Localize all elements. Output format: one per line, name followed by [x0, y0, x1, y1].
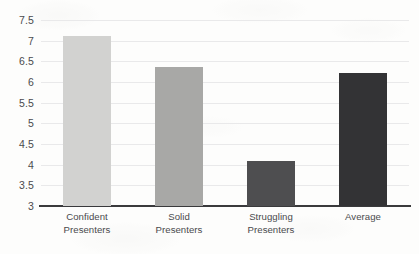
x-axis-tick-label-line: Presenters [225, 224, 317, 237]
y-axis-tick-label: 7.5 [19, 14, 34, 26]
y-axis-tick-label: 5.5 [19, 97, 34, 109]
x-axis-tick-label: SolidPresenters [133, 211, 225, 236]
y-axis-tick-label: 3.5 [19, 179, 34, 191]
bars-layer [41, 20, 409, 206]
x-axis-tick-label-line: Confident [66, 211, 108, 222]
x-axis-tick-label-line: Struggling [249, 211, 293, 222]
x-axis-tick-label-line: Presenters [41, 224, 133, 237]
x-axis-tick-label-line: Solid [168, 211, 190, 222]
bar [247, 161, 295, 206]
x-axis-tick-label: Average [317, 211, 409, 224]
bar [339, 73, 387, 206]
y-axis-tick-label: 7 [28, 35, 34, 47]
y-axis-tick-label: 3 [28, 200, 34, 212]
y-axis-tick-label: 6 [28, 76, 34, 88]
y-axis-tick-label: 4.5 [19, 138, 34, 150]
x-axis-tick-label-line: Presenters [133, 224, 225, 237]
bar-chart-figure: 7.576.565.554.543.53 ConfidentPresenters… [0, 0, 419, 254]
y-axis: 7.576.565.554.543.53 [0, 20, 34, 206]
x-axis: ConfidentPresentersSolidPresentersStrugg… [41, 211, 409, 251]
y-axis-tick-label: 6.5 [19, 55, 34, 67]
bar [63, 36, 111, 206]
bar [155, 67, 203, 206]
y-axis-tick-label: 4 [28, 159, 34, 171]
x-axis-tick-label-line: Average [345, 211, 381, 222]
x-axis-tick-label: StrugglingPresenters [225, 211, 317, 236]
y-axis-tick-label: 5 [28, 117, 34, 129]
x-axis-tick-label: ConfidentPresenters [41, 211, 133, 236]
